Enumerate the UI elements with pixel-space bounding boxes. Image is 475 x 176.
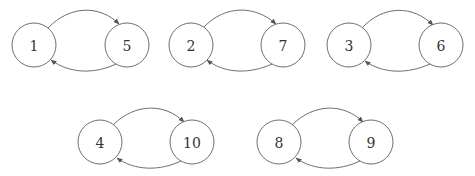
- node-10: 10: [170, 120, 214, 164]
- node-label: 4: [96, 135, 105, 151]
- edge-4-to-10: [113, 108, 184, 125]
- node-pair-1-5: 1 5: [12, 10, 149, 71]
- node-pair-4-10: 4 10: [78, 108, 214, 168]
- edge-5-to-1: [51, 60, 116, 71]
- node-1: 1: [12, 23, 56, 67]
- edge-9-to-8: [296, 158, 360, 168]
- edge-2-to-7: [204, 10, 276, 27]
- node-label: 3: [345, 38, 354, 54]
- node-3: 3: [327, 23, 371, 67]
- node-label: 5: [123, 38, 132, 54]
- node-label: 8: [275, 135, 284, 151]
- edge-6-to-3: [365, 61, 430, 71]
- node-9: 9: [349, 120, 393, 164]
- node-pair-8-9: 8 9: [257, 108, 393, 168]
- node-5: 5: [105, 23, 149, 67]
- node-label: 7: [279, 38, 288, 54]
- node-label: 9: [367, 135, 376, 151]
- edge-8-to-9: [292, 108, 363, 125]
- node-6: 6: [419, 23, 463, 67]
- node-7: 7: [261, 23, 305, 67]
- edge-3-to-6: [362, 10, 433, 28]
- node-pair-3-6: 3 6: [327, 10, 463, 71]
- edge-7-to-2: [207, 60, 272, 71]
- node-label: 6: [437, 38, 446, 54]
- node-label: 1: [30, 38, 39, 54]
- edge-1-to-5: [48, 10, 119, 28]
- node-4: 4: [78, 120, 122, 164]
- node-pair-2-7: 2 7: [169, 10, 305, 71]
- graph-canvas: 1 5 2 7 3 6: [0, 0, 475, 176]
- node-label: 2: [187, 38, 196, 54]
- node-label: 10: [183, 135, 201, 151]
- node-2: 2: [169, 23, 213, 67]
- edge-10-to-4: [117, 158, 181, 168]
- node-8: 8: [257, 120, 301, 164]
